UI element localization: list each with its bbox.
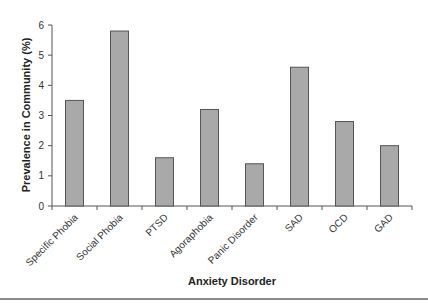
bar-panic-disorder xyxy=(246,164,264,206)
x-category-label: Agoraphobia xyxy=(167,211,215,259)
bar-sad xyxy=(291,67,309,206)
y-tick-label: 3 xyxy=(38,110,44,121)
x-category-label: GAD xyxy=(372,212,395,235)
x-category-label: PTSD xyxy=(143,212,170,239)
x-category-label: Social Phobia xyxy=(74,211,125,262)
bar-chart: 0123456 Specific PhobiaSocial PhobiaPTSD… xyxy=(0,0,428,306)
bottom-rule xyxy=(0,298,428,300)
bar-specific-phobia xyxy=(66,100,84,206)
y-tick-label: 0 xyxy=(38,201,44,212)
y-tick-label: 5 xyxy=(38,50,44,61)
x-axis-title: Anxiety Disorder xyxy=(188,275,277,287)
y-tick-label: 6 xyxy=(38,20,44,31)
x-axis: Specific PhobiaSocial PhobiaPTSDAgorapho… xyxy=(23,206,412,268)
x-category-label: SAD xyxy=(283,212,305,234)
x-category-label: Specific Phobia xyxy=(23,211,80,268)
x-category-label: OCD xyxy=(326,212,350,236)
bar-agoraphobia xyxy=(201,109,219,206)
y-tick-label: 2 xyxy=(38,140,44,151)
y-axis-title: Prevalence in Community (%) xyxy=(20,37,32,192)
bar-gad xyxy=(381,146,399,206)
bars xyxy=(66,31,399,206)
bar-ptsd xyxy=(156,158,174,206)
y-tick-label: 4 xyxy=(38,80,44,91)
bar-ocd xyxy=(336,122,354,206)
bar-social-phobia xyxy=(111,31,129,206)
y-axis: 0123456 xyxy=(38,20,52,212)
y-tick-label: 1 xyxy=(38,170,44,181)
